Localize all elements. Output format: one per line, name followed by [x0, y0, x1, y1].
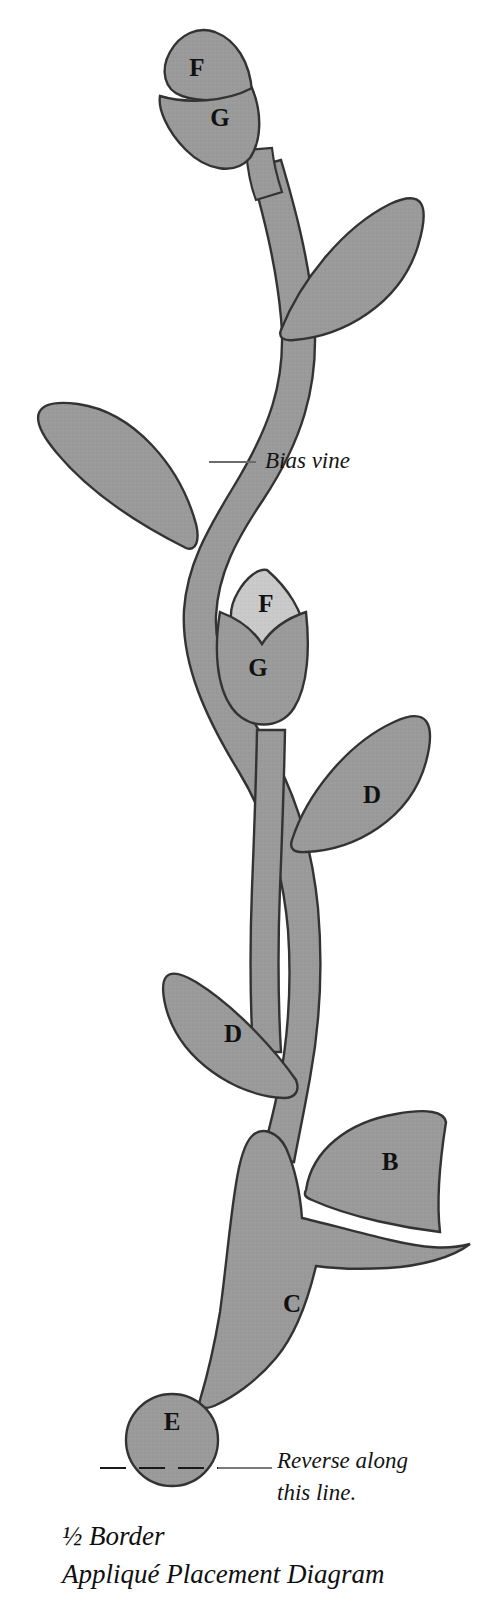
piece-label-d-right: D: [363, 781, 381, 808]
piece-label-g-mid: G: [248, 654, 267, 681]
annotation-reverse-text-line2: this line.: [277, 1480, 356, 1505]
petal-g-top: G: [160, 88, 260, 169]
piece-label-b: B: [382, 1148, 399, 1175]
piece-label-f-top: F: [189, 54, 204, 81]
caption-line-1: ½ Border: [62, 1521, 165, 1551]
diagram-canvas: D D F G F: [0, 0, 500, 1604]
flower-assembly: B C: [200, 1111, 470, 1408]
bud-middle: F G: [217, 570, 308, 725]
figure-caption: ½ Border Appliqué Placement Diagram: [60, 1521, 384, 1589]
leaf-d-right: D: [291, 716, 430, 852]
circle-e: E: [126, 1394, 218, 1486]
piece-label-d-left: D: [224, 1020, 242, 1047]
piece-label-f-mid: F: [258, 590, 273, 617]
applique-placement-diagram: D D F G F: [0, 0, 500, 1604]
petal-f-top: F: [165, 30, 252, 100]
bud-top: F G: [160, 30, 260, 169]
petal-b: B: [305, 1111, 446, 1232]
annotation-bias-vine: Bias vine: [209, 448, 350, 473]
leaf-mid-left: [38, 403, 197, 549]
piece-label-c: C: [283, 1290, 301, 1317]
piece-label-e: E: [164, 1408, 181, 1435]
annotation-bias-vine-text: Bias vine: [265, 448, 350, 473]
vine-branch-middle-bud: [251, 730, 285, 1052]
caption-line-2: Appliqué Placement Diagram: [60, 1559, 384, 1589]
piece-label-g-top: G: [210, 104, 229, 131]
annotation-reverse-text-line1: Reverse along: [276, 1448, 408, 1473]
annotation-reverse-line: Reverse along this line.: [276, 1448, 408, 1505]
